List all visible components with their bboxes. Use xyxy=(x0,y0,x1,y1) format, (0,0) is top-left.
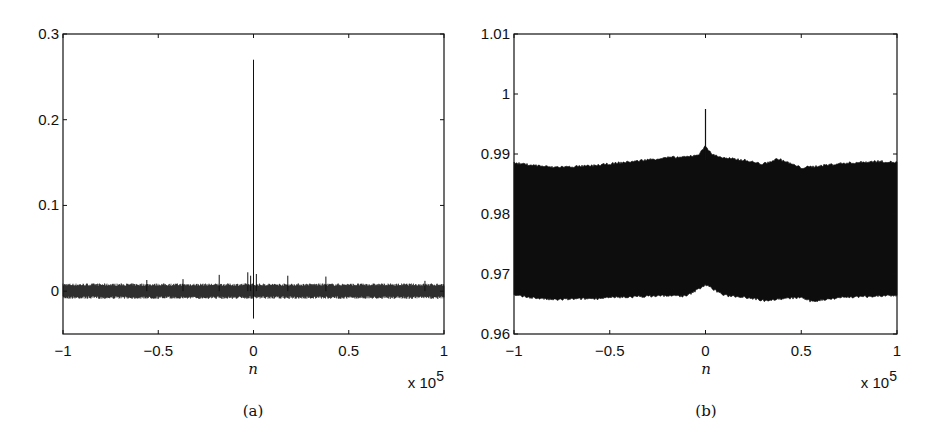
y-tick-label: 1 xyxy=(502,85,510,102)
x-multiplier-a: x 105 xyxy=(408,368,444,391)
x-tick-label: −0.5 xyxy=(143,342,173,359)
chart-b: −1−0.500.510.960.970.980.9911.01 n x 105… xyxy=(460,0,931,444)
x-axis-label-a: n xyxy=(248,360,258,378)
chart-panel-a: −1−0.500.5100.10.20.3 n x 105 (a) xyxy=(0,0,460,444)
x-tick-label: −0.5 xyxy=(595,342,625,359)
y-tick-label: 0.3 xyxy=(38,25,59,42)
x-tick-label: 0 xyxy=(249,342,257,359)
y-tick-label: 0.99 xyxy=(481,145,510,162)
x-tick-label: 1 xyxy=(893,342,901,359)
x-tick-label: 0 xyxy=(701,342,709,359)
signal-trace-a xyxy=(63,60,444,319)
y-tick-label: 1.01 xyxy=(481,25,510,42)
x-tick-label: 1 xyxy=(440,342,448,359)
x-tick-label: −1 xyxy=(505,342,522,359)
x-tick-label: 0.5 xyxy=(338,342,359,359)
axis-ticks-a: −1−0.500.5100.10.20.3 xyxy=(38,25,448,359)
signal-band-b xyxy=(514,109,897,302)
x-tick-label: −1 xyxy=(54,342,71,359)
y-tick-label: 0.1 xyxy=(38,196,59,213)
panel-caption-b: (b) xyxy=(695,402,716,420)
chart-a: −1−0.500.5100.10.20.3 n x 105 (a) xyxy=(0,0,460,444)
panel-caption-a: (a) xyxy=(243,402,264,420)
y-tick-label: 0.2 xyxy=(38,111,59,128)
x-axis-label-b: n xyxy=(701,360,711,378)
y-tick-label: 0.97 xyxy=(481,265,510,282)
x-tick-label: 0.5 xyxy=(791,342,812,359)
y-tick-label: 0.98 xyxy=(481,205,510,222)
y-tick-label: 0.96 xyxy=(481,325,510,342)
chart-panel-b: −1−0.500.510.960.970.980.9911.01 n x 105… xyxy=(460,0,931,444)
y-tick-label: 0 xyxy=(51,282,59,299)
x-multiplier-b: x 105 xyxy=(861,368,897,391)
